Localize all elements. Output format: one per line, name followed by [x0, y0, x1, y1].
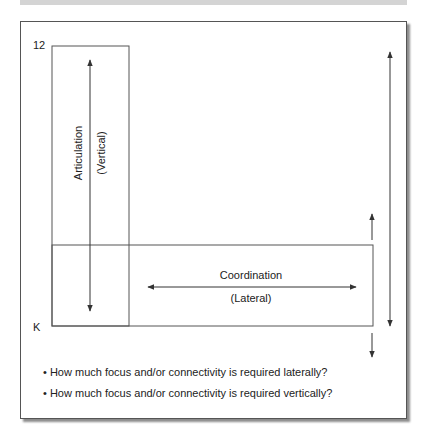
vertical-sublabel: (Vertical): [95, 131, 107, 174]
scale-top-label: 12: [33, 39, 45, 51]
coordination-label: Coordination: [220, 269, 282, 281]
question-list: • How much focus and/or connectivity is …: [43, 362, 332, 404]
scale-bottom-label: K: [33, 321, 41, 333]
question-lateral: • How much focus and/or connectivity is …: [43, 362, 332, 383]
articulation-label: Articulation: [72, 126, 84, 180]
lateral-sublabel: (Lateral): [231, 292, 272, 304]
question-vertical: • How much focus and/or connectivity is …: [43, 383, 332, 404]
horizontal-box: [52, 245, 373, 326]
